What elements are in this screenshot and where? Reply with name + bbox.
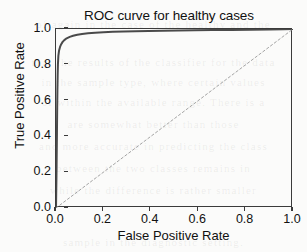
y-tick-label: 0.2 xyxy=(17,165,51,178)
x-tick-mark xyxy=(291,207,292,211)
x-tick-mark xyxy=(197,207,198,211)
plot-area xyxy=(55,28,292,207)
chance-diagonal-line xyxy=(56,29,293,208)
x-tick-label: 0.0 xyxy=(35,213,75,226)
x-tick-label: 0.4 xyxy=(130,213,170,226)
y-tick-label: 0.4 xyxy=(17,129,51,142)
roc-chart-screenshot: of again in the case of the healthy and … xyxy=(0,0,307,252)
x-tick-mark xyxy=(54,207,55,211)
x-tick-label: 1.0 xyxy=(272,213,307,226)
roc-curve-plot xyxy=(56,29,293,208)
x-tick-mark xyxy=(244,207,245,211)
x-tick-mark xyxy=(149,207,150,211)
x-tick-mark xyxy=(102,207,103,211)
x-tick-label: 0.6 xyxy=(177,213,217,226)
y-tick-label: 0.6 xyxy=(17,94,51,107)
y-tick-label: 0.8 xyxy=(17,58,51,71)
x-tick-label: 0.8 xyxy=(225,213,265,226)
x-axis-label: False Positive Rate xyxy=(55,228,292,243)
y-axis-ticks: 0.00.20.40.60.81.0 xyxy=(13,28,51,207)
plot-inner xyxy=(56,29,291,206)
y-tick-label: 1.0 xyxy=(17,22,51,35)
x-tick-label: 0.2 xyxy=(82,213,122,226)
chart-title: ROC curve for healthy cases xyxy=(40,8,298,23)
chart-figure: ROC curve for healthy cases True Positiv… xyxy=(0,0,307,252)
